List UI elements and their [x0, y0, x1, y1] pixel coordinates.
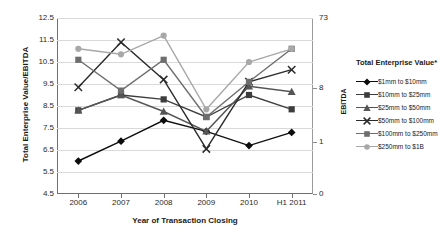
- y-axis-tick-mark-right: [313, 88, 317, 89]
- x-axis-tick-label: H1 2011: [268, 198, 316, 207]
- legend-label: $25mm to $50mm: [378, 104, 430, 112]
- y-axis-tick-label-right: 73: [319, 14, 345, 22]
- x-axis-tick-mark: [78, 194, 79, 198]
- y-axis-tick-label: 4.5: [20, 190, 54, 198]
- legend-item-3[interactable]: $50mm to $100mm: [356, 114, 442, 127]
- legend: Total Enterprise Value* $1mm to $10mm$10…: [356, 58, 442, 153]
- y-axis-tick-label: 12.5: [20, 14, 54, 22]
- y-axis-tick-label: 10.5: [20, 58, 54, 66]
- y-axis-tick-label: 8.5: [20, 102, 54, 110]
- x-axis-tick-label: 2009: [182, 198, 230, 207]
- legend-label: $100mm to $250mm: [378, 130, 438, 138]
- y-axis-tick-label-right: 1: [319, 138, 345, 146]
- legend-label: $10mm to $25mm: [378, 91, 430, 99]
- legend-marker-square-icon: [356, 128, 378, 139]
- x-axis-tick-label: 2010: [225, 198, 273, 207]
- legend-item-0[interactable]: $1mm to $10mm: [356, 75, 442, 88]
- legend-marker-square-icon: [356, 89, 378, 100]
- legend-marker-triangle-icon: [356, 102, 378, 113]
- legend-label: $1mm to $10mm: [378, 78, 427, 86]
- legend-label: $250mm to $1B: [378, 143, 424, 151]
- legend-marker-diamond-icon: [356, 76, 378, 87]
- y-axis-tick-label: 9.5: [20, 80, 54, 88]
- x-axis-tick-label: 2007: [97, 198, 145, 207]
- y-axis-tick-mark-right: [313, 194, 317, 195]
- x-axis-tick-label: 2006: [54, 198, 102, 207]
- legend-marker-circle-icon: [356, 141, 378, 152]
- chart-container: Total Enterprise Value/EBITDA EBITDA 12.…: [0, 0, 442, 240]
- plot-area: [57, 18, 313, 194]
- series-3: [75, 38, 296, 152]
- y-axis-title-right: EBITDA: [340, 72, 347, 132]
- legend-item-2[interactable]: $25mm to $50mm: [356, 101, 442, 114]
- x-axis-tick-mark: [121, 194, 122, 198]
- y-axis-tick-label-right: 0: [319, 190, 345, 198]
- x-axis-tick-mark: [249, 194, 250, 198]
- series-1: [75, 92, 295, 120]
- y-axis-tick-label: 11.5: [20, 36, 54, 44]
- legend-marker-cross-icon: [356, 115, 378, 126]
- y-axis-tick-mark-right: [313, 142, 317, 143]
- legend-item-5[interactable]: $250mm to $1B: [356, 140, 442, 153]
- legend-item-1[interactable]: $10mm to $25mm: [356, 88, 442, 101]
- series-0: [74, 116, 295, 164]
- legend-label: $50mm to $100mm: [378, 117, 434, 125]
- x-axis-title: Year of Transaction Closing: [57, 216, 313, 225]
- y-axis-tick-label: 7.5: [20, 124, 54, 132]
- legend-title: Total Enterprise Value*: [356, 58, 442, 67]
- series-lines: [57, 18, 313, 194]
- legend-item-4[interactable]: $100mm to $250mm: [356, 127, 442, 140]
- x-axis-tick-mark: [206, 194, 207, 198]
- y-axis-tick-label: 5.5: [20, 168, 54, 176]
- x-axis-tick-mark: [164, 194, 165, 198]
- x-axis-tick-mark: [292, 194, 293, 198]
- x-axis-tick-label: 2008: [140, 198, 188, 207]
- legend-rows: $1mm to $10mm$10mm to $25mm$25mm to $50m…: [356, 75, 442, 153]
- y-axis-tick-label-right: 8: [319, 84, 345, 92]
- y-axis-tick-label: 6.5: [20, 146, 54, 154]
